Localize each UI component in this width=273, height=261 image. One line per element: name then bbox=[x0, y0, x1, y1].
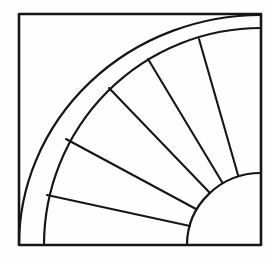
fan-quilt-block-drawing bbox=[0, 0, 273, 261]
paper-background bbox=[0, 0, 273, 261]
fan-quilt-block-svg bbox=[0, 0, 273, 261]
